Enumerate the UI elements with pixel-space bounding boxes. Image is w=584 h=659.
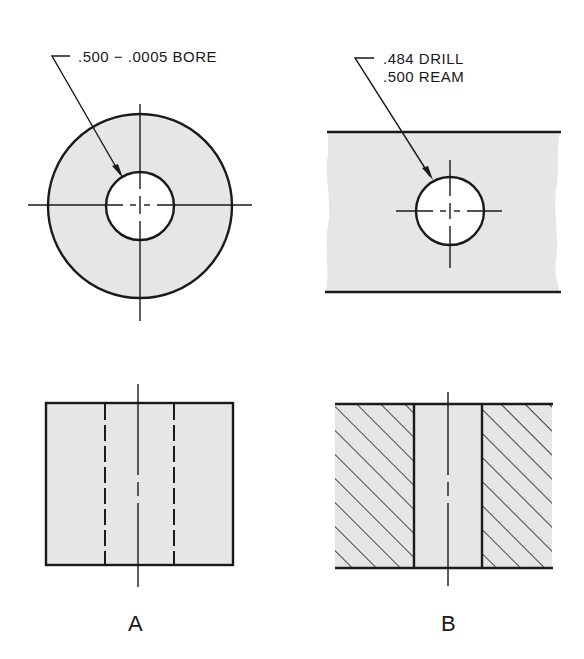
figure-a-section-view: A [46, 384, 233, 636]
figure-a-plan-view: .500 − .0005 BORE [28, 48, 252, 321]
drawing-canvas: .500 − .0005 BORE .484 DRILL .500 REAM [0, 0, 584, 659]
figure-b-plan-view: .484 DRILL .500 REAM [325, 50, 561, 292]
figure-label-a: A [128, 611, 143, 636]
hatched-material-left [335, 404, 414, 568]
bore-callout: .500 − .0005 BORE [78, 48, 217, 65]
hatched-material-right [482, 404, 552, 568]
drill-callout: .484 DRILL [383, 50, 464, 67]
ream-callout: .500 REAM [383, 68, 464, 85]
bushing-body [46, 403, 233, 565]
figure-label-b: B [441, 611, 456, 636]
figure-b-section-view: B [335, 392, 553, 636]
